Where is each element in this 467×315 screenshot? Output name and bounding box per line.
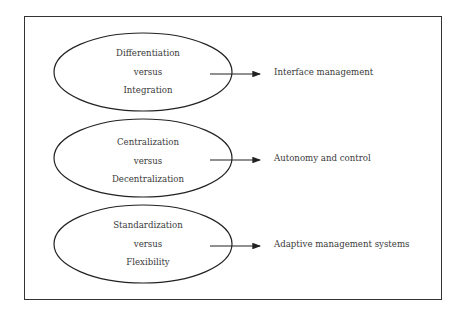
ellipse-3-top: Standardization — [78, 216, 218, 235]
ellipse-1-bottom: Integration — [78, 81, 218, 100]
outcome-label-3: Adaptive management systems — [274, 239, 409, 249]
ellipse-3-bottom: Flexibility — [78, 253, 218, 272]
ellipse-text-1: Differentiation versus Integration — [78, 44, 218, 100]
ellipse-2-middle: versus — [78, 152, 218, 171]
ellipse-2-top: Centralization — [78, 133, 218, 152]
ellipse-text-2: Centralization versus Decentralization — [78, 133, 218, 189]
ellipse-3-middle: versus — [78, 235, 218, 254]
ellipse-text-3: Standardization versus Flexibility — [78, 216, 218, 272]
ellipse-2-bottom: Decentralization — [78, 170, 218, 189]
diagram-shapes — [0, 0, 467, 315]
outcome-label-2: Autonomy and control — [274, 153, 371, 163]
ellipse-1-top: Differentiation — [78, 44, 218, 63]
outcome-label-1: Interface management — [274, 67, 373, 77]
ellipse-1-middle: versus — [78, 63, 218, 82]
